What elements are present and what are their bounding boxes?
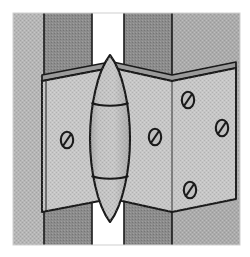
jamb-left-outer-face xyxy=(13,13,44,245)
screw-left-1 xyxy=(61,132,73,148)
hinge-leaf-right-face xyxy=(113,68,236,212)
hinge-illustration-figure: Grayscale line drawing of a butt hinge: … xyxy=(0,0,250,257)
screw-right-3 xyxy=(216,120,228,136)
screw-right-1 xyxy=(182,92,194,108)
screw-right-4 xyxy=(184,182,196,198)
hinge-illustration-canvas xyxy=(0,0,250,257)
screw-right-2 xyxy=(149,129,161,145)
hinge-leaf-right xyxy=(113,62,236,212)
